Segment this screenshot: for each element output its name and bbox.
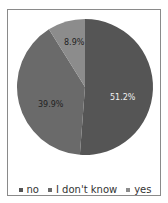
pie-chart	[8, 10, 162, 197]
legend-swatch-i-dont-know	[48, 188, 52, 192]
legend-item-yes: yes	[126, 184, 151, 195]
slice-label-i-dont-know: 39.9%	[38, 100, 63, 109]
chart-frame: 51.2% 39.9% 8.9% no I don't know yes	[7, 9, 161, 196]
legend: no I don't know yes	[8, 184, 162, 195]
legend-label-i-dont-know: I don't know	[56, 184, 117, 195]
legend-swatch-yes	[126, 188, 130, 192]
slice-label-no: 51.2%	[110, 93, 135, 102]
legend-label-no: no	[27, 184, 39, 195]
legend-swatch-no	[19, 188, 23, 192]
pie-slice-no	[80, 19, 153, 155]
slice-label-yes: 8.9%	[64, 38, 84, 47]
legend-label-yes: yes	[134, 184, 151, 195]
legend-item-no: no	[19, 184, 39, 195]
legend-item-i-dont-know: I don't know	[48, 184, 117, 195]
